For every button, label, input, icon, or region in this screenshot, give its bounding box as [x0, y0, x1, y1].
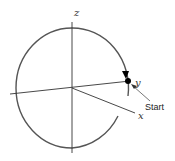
- y-axis: [10, 81, 130, 94]
- x-axis: [72, 88, 135, 113]
- y-axis-label: y: [134, 77, 141, 88]
- rotation-diagram: z y x Start: [0, 0, 175, 161]
- start-point-marker: [125, 78, 131, 84]
- x-axis-label: x: [138, 110, 144, 121]
- start-pointer-line: [133, 86, 150, 101]
- z-axis-label: z: [73, 7, 80, 18]
- start-label: Start: [145, 102, 165, 112]
